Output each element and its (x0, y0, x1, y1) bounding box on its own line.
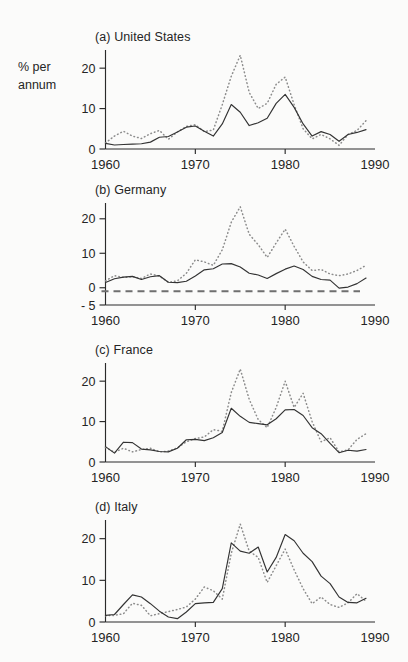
y-tick-label: 0 (89, 456, 96, 470)
x-tick-label: 1970 (181, 313, 210, 328)
x-tick-label: 1960 (91, 630, 120, 645)
figure-panel-container: % per annum (a) United States 0102019601… (0, 0, 408, 662)
panel-d-plot: 010201960197019801990 (0, 500, 408, 655)
panel-d-italy: (d) Italy 010201960197019801990 (0, 500, 408, 655)
panel-b-plot: - 5010201960197019801990 (0, 183, 408, 338)
series-line-dotted (106, 524, 367, 616)
series-line-dotted (106, 55, 367, 145)
x-tick-label: 1970 (181, 470, 210, 485)
x-tick-label: 1960 (91, 313, 120, 328)
x-tick-label: 1970 (181, 157, 210, 172)
y-tick-label: - 5 (81, 299, 96, 313)
y-tick-label: 20 (82, 375, 96, 389)
x-tick-label: 1990 (361, 630, 390, 645)
y-tick-label: 10 (82, 415, 96, 429)
y-tick-label: 0 (89, 281, 96, 295)
x-tick-label: 1980 (271, 630, 300, 645)
panel-b-germany: (b) Germany - 5010201960197019801990 (0, 183, 408, 338)
x-tick-label: 1980 (271, 313, 300, 328)
series-line-solid (106, 264, 367, 288)
y-tick-label: 0 (89, 143, 96, 157)
panel-c-france: (c) France 010201960197019801990 (0, 343, 408, 495)
x-tick-label: 1960 (91, 157, 120, 172)
y-tick-label: 10 (82, 102, 96, 116)
y-tick-label: 20 (82, 532, 96, 546)
panel-c-plot: 010201960197019801990 (0, 343, 408, 495)
x-tick-label: 1990 (361, 313, 390, 328)
y-tick-label: 10 (82, 247, 96, 261)
panel-a-united-states: (a) United States 010201960197019801990 (0, 30, 408, 182)
x-tick-label: 1990 (361, 157, 390, 172)
y-tick-label: 0 (89, 616, 96, 630)
y-tick-label: 20 (82, 62, 96, 76)
series-line-solid (106, 535, 367, 619)
x-tick-label: 1980 (271, 157, 300, 172)
x-tick-label: 1980 (271, 470, 300, 485)
y-tick-label: 10 (82, 574, 96, 588)
x-tick-label: 1960 (91, 470, 120, 485)
panel-a-plot: 010201960197019801990 (0, 30, 408, 182)
x-tick-label: 1970 (181, 630, 210, 645)
series-line-solid (106, 408, 367, 453)
series-line-dotted (106, 207, 367, 283)
y-tick-label: 20 (82, 212, 96, 226)
x-tick-label: 1990 (361, 470, 390, 485)
